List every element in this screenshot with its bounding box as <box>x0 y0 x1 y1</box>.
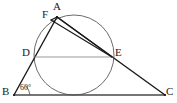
segment-AE <box>57 17 112 57</box>
segment-FE <box>51 20 112 57</box>
point-label-A: A <box>53 1 61 12</box>
point-label-D: D <box>22 47 30 58</box>
inscribed-circle <box>34 15 114 95</box>
point-label-F: F <box>42 9 48 20</box>
point-label-C: C <box>166 86 173 97</box>
vertex-dot-A <box>56 16 58 18</box>
geometry-figure: A F D E B C 60° <box>0 0 177 103</box>
point-label-B: B <box>2 86 9 97</box>
angle-label-B: 60° <box>20 84 31 92</box>
point-label-E: E <box>115 47 122 58</box>
vertex-dot-B <box>13 94 15 96</box>
